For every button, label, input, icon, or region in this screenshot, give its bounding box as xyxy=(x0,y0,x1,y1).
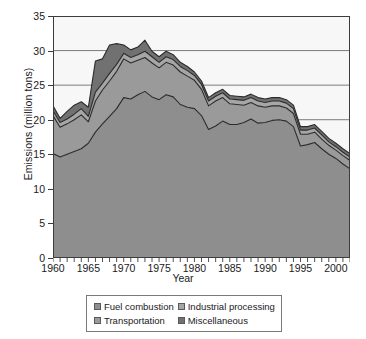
legend-entry: Industrial processing xyxy=(176,299,277,313)
legend-entry: Miscellaneous xyxy=(176,313,277,327)
legend-row: Fuel combustionIndustrial processing xyxy=(92,299,277,313)
legend-table: Fuel combustionIndustrial processingTran… xyxy=(92,299,277,327)
y-tick-label: 15 xyxy=(33,148,45,160)
plot-area xyxy=(53,16,350,258)
stacked-area-plot xyxy=(53,16,350,258)
y-tick-label: 5 xyxy=(39,217,45,229)
legend-entry: Transportation xyxy=(92,313,176,327)
legend-swatch-icon xyxy=(94,303,101,310)
legend-label: Fuel combustion xyxy=(104,301,174,312)
legend-swatch-icon xyxy=(94,317,101,324)
y-axis-ticks: 05101520253035 xyxy=(0,0,53,258)
legend-label: Transportation xyxy=(104,315,165,326)
legend-entry: Fuel combustion xyxy=(92,299,176,313)
emissions-stacked-area-figure: Emissions (million tons) 05101520253035 … xyxy=(0,0,366,339)
legend-label: Miscellaneous xyxy=(188,315,248,326)
legend-label: Industrial processing xyxy=(188,301,275,312)
x-axis-title: Year xyxy=(0,272,366,284)
chart-legend: Fuel combustionIndustrial processingTran… xyxy=(86,295,282,332)
y-tick-label: 35 xyxy=(33,10,45,22)
legend-swatch-icon xyxy=(178,303,185,310)
legend-swatch-icon xyxy=(178,317,185,324)
y-tick-label: 30 xyxy=(33,45,45,57)
y-tick-label: 10 xyxy=(33,183,45,195)
y-tick-label: 20 xyxy=(33,114,45,126)
y-tick-label: 25 xyxy=(33,79,45,91)
legend-row: TransportationMiscellaneous xyxy=(92,313,277,327)
